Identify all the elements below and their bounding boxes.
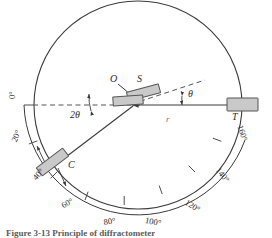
- label-O: O: [110, 74, 117, 84]
- scale-label-80: 80°: [103, 216, 116, 226]
- radius-label: r: [166, 115, 170, 124]
- label-C: C: [68, 160, 75, 170]
- scale-label-0: 0°: [8, 91, 17, 99]
- specimen-holder-block: [113, 95, 144, 106]
- label-S: S: [137, 74, 142, 84]
- two-theta-arc: [89, 94, 91, 111]
- label-T: T: [232, 112, 238, 122]
- figure-caption: Figure 3-13 Principle of diffractometer: [6, 228, 155, 238]
- two-theta-angle-label: 2θ: [70, 110, 80, 120]
- figure-diffractometer: O S C T θ 2θ r 0° 20° 40° 60° 80° 100° 1…: [0, 0, 272, 238]
- theta-angle-label: θ: [188, 89, 193, 99]
- xray-tube-block: [227, 98, 258, 111]
